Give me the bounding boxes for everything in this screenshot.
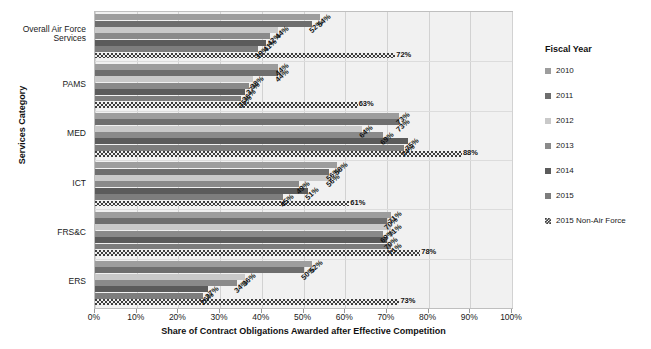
bar-2010 (95, 212, 391, 218)
x-tick-label: 100% (500, 312, 522, 322)
x-tick-label: 90% (461, 312, 478, 322)
bar-2012 (95, 224, 391, 230)
bar-2013 (95, 83, 249, 89)
legend: Fiscal Year 2010201120122013201420152015… (545, 44, 649, 240)
y-tick-label: Overall Air Force Services (0, 25, 86, 45)
x-tick-mark (386, 309, 387, 313)
bar-group (95, 261, 512, 305)
data-label: 63% (359, 100, 374, 108)
bar-2010 (95, 14, 320, 20)
legend-title: Fiscal Year (545, 44, 649, 54)
bar-2010 (95, 162, 337, 168)
bar-2011 (95, 21, 312, 27)
bar-2011 (95, 218, 387, 224)
bar-2013 (95, 132, 383, 138)
bar-2014 (95, 286, 208, 292)
bar-group (95, 113, 512, 157)
legend-item[interactable]: 2011 (545, 90, 649, 101)
legend-swatch-icon (545, 168, 551, 174)
data-label: 61% (350, 199, 365, 207)
bar-2010 (95, 113, 399, 119)
x-tick-mark (469, 309, 470, 313)
bar-group (95, 64, 512, 108)
y-tick-label: PAMS (0, 80, 86, 90)
group-separator (95, 61, 512, 62)
bar-2015 (95, 194, 283, 200)
x-tick-mark (219, 309, 220, 313)
legend-label: 2012 (556, 116, 574, 125)
x-tick-label: 80% (419, 312, 436, 322)
group-separator (95, 209, 512, 210)
y-tick-label: MED (0, 129, 86, 139)
legend-label: 2011 (556, 91, 573, 100)
bar-2013 (95, 231, 383, 237)
bar-2015-non-air-force (95, 53, 395, 59)
legend-label: 2013 (556, 141, 574, 150)
bar-2011 (95, 70, 278, 76)
x-tick-label: 0% (88, 312, 100, 322)
bar-2015 (95, 244, 391, 250)
legend-swatch-icon (545, 93, 551, 99)
bar-2014 (95, 89, 245, 95)
data-label: 73% (400, 297, 415, 305)
data-label: 78% (421, 248, 436, 256)
bar-2014 (95, 237, 387, 243)
legend-item[interactable]: 2015 Non-Air Force (545, 215, 649, 226)
bar-2010 (95, 64, 278, 70)
legend-swatch-icon (545, 143, 551, 149)
x-axis-title: Share of Contract Obligations Awarded af… (94, 326, 513, 336)
y-tick-label: FRS&C (0, 228, 86, 238)
x-tick-mark (428, 309, 429, 313)
x-tick-mark (303, 309, 304, 313)
bar-group (95, 212, 512, 256)
legend-item[interactable]: 2010 (545, 65, 649, 76)
bar-2011 (95, 169, 329, 175)
bar-2015-non-air-force (95, 299, 399, 305)
bar-2015-non-air-force (95, 102, 358, 108)
legend-swatch-icon (545, 218, 551, 224)
legend-label: 2015 Non-Air Force (556, 216, 626, 225)
group-separator (95, 259, 512, 260)
bar-2011 (95, 119, 399, 125)
x-tick-label: 20% (169, 312, 186, 322)
bar-2015 (95, 46, 258, 52)
x-tick-mark (94, 309, 95, 313)
bar-2013 (95, 33, 270, 39)
x-tick-label: 70% (377, 312, 394, 322)
bar-2014 (95, 188, 308, 194)
y-tick-label: ICT (0, 179, 86, 189)
bar-2015 (95, 145, 404, 151)
gridline (512, 12, 513, 308)
group-separator (95, 160, 512, 161)
data-label: 72% (396, 51, 411, 59)
x-tick-label: 60% (336, 312, 353, 322)
bar-chart: Share of Contract Obligations Awarded af… (0, 0, 651, 349)
bar-2015 (95, 96, 241, 102)
legend-item[interactable]: 2013 (545, 140, 649, 151)
bar-2012 (95, 274, 245, 280)
legend-label: 2015 (556, 191, 574, 200)
legend-label: 2014 (556, 166, 574, 175)
bar-2015-non-air-force (95, 250, 420, 256)
x-tick-mark (177, 309, 178, 313)
legend-item[interactable]: 2012 (545, 115, 649, 126)
data-label: 88% (463, 149, 478, 157)
top-edge-spacer (0, 0, 651, 4)
bar-2015-non-air-force (95, 201, 349, 207)
legend-item[interactable]: 2015 (545, 190, 649, 201)
bar-2011 (95, 267, 304, 273)
bar-2015 (95, 293, 203, 299)
bar-2012 (95, 175, 329, 181)
bar-2014 (95, 40, 266, 46)
legend-label: 2010 (556, 66, 574, 75)
legend-item[interactable]: 2014 (545, 165, 649, 176)
bar-2014 (95, 138, 408, 144)
plot-area (94, 11, 513, 309)
x-tick-mark (136, 309, 137, 313)
x-tick-mark (511, 309, 512, 313)
bar-2012 (95, 126, 362, 132)
legend-swatch-icon (545, 118, 551, 124)
y-tick-label: ERS (0, 277, 86, 287)
x-tick-label: 30% (211, 312, 228, 322)
bar-2010 (95, 261, 312, 267)
